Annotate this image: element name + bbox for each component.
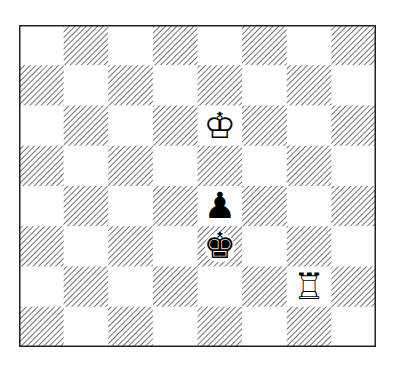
square-c6: [108, 106, 153, 147]
square-d5: [153, 146, 198, 187]
square-g5: [287, 146, 332, 187]
square-b1: [64, 307, 109, 347]
square-e2: [198, 267, 243, 308]
chess-board: ♔♟♚♖: [19, 25, 376, 347]
square-a1: [19, 307, 64, 347]
square-g7: [287, 65, 332, 106]
square-h7: [331, 65, 376, 106]
piece-white-rook: ♖: [293, 266, 325, 307]
square-e7: [198, 65, 243, 106]
square-b4: [64, 186, 109, 227]
square-f2: [242, 267, 287, 308]
square-h4: [331, 186, 376, 227]
square-b5: [64, 146, 109, 187]
square-c7: [108, 65, 153, 106]
square-h2: [331, 267, 376, 308]
square-e1: [198, 307, 243, 347]
square-a2: [19, 267, 64, 308]
square-h5: [331, 146, 376, 187]
square-d8: [153, 25, 198, 66]
chess-board-svg: ♔♟♚♖: [19, 25, 376, 347]
square-b2: [64, 267, 109, 308]
square-b6: [64, 106, 109, 147]
square-f4: [242, 186, 287, 227]
square-f7: [242, 65, 287, 106]
square-d2: [153, 267, 198, 308]
square-a8: [19, 25, 64, 66]
square-h6: [331, 106, 376, 147]
square-g6: [287, 106, 332, 147]
square-h1: [331, 307, 376, 347]
white-rook-icon: ♖: [293, 266, 325, 307]
piece-black-pawn: ♟: [204, 185, 236, 226]
square-b3: [64, 226, 109, 267]
square-f6: [242, 106, 287, 147]
square-c4: [108, 186, 153, 227]
piece-black-king: ♚: [204, 225, 236, 266]
square-d1: [153, 307, 198, 347]
square-b8: [64, 25, 109, 66]
square-a5: [19, 146, 64, 187]
square-d7: [153, 65, 198, 106]
square-g3: [287, 226, 332, 267]
square-c3: [108, 226, 153, 267]
square-c2: [108, 267, 153, 308]
square-g1: [287, 307, 332, 347]
square-g4: [287, 186, 332, 227]
square-a6: [19, 106, 64, 147]
square-f1: [242, 307, 287, 347]
square-h3: [331, 226, 376, 267]
square-a7: [19, 65, 64, 106]
square-a3: [19, 226, 64, 267]
square-d6: [153, 106, 198, 147]
square-d3: [153, 226, 198, 267]
white-king-icon: ♔: [204, 105, 236, 146]
square-d4: [153, 186, 198, 227]
square-f3: [242, 226, 287, 267]
square-h8: [331, 25, 376, 66]
square-b7: [64, 65, 109, 106]
square-e5: [198, 146, 243, 187]
square-c8: [108, 25, 153, 66]
square-e8: [198, 25, 243, 66]
square-a4: [19, 186, 64, 227]
square-c5: [108, 146, 153, 187]
black-king-icon: ♚: [204, 225, 236, 266]
square-f8: [242, 25, 287, 66]
piece-white-king: ♔: [204, 105, 236, 146]
black-pawn-icon: ♟: [204, 185, 236, 226]
square-f5: [242, 146, 287, 187]
square-c1: [108, 307, 153, 347]
square-g8: [287, 25, 332, 66]
